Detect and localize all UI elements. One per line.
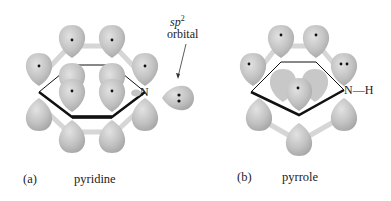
sp2-orbital-lobe [162,86,194,110]
pyridine-nitrogen-label: N [140,85,149,100]
nitrogen-symbol: N [344,83,353,97]
p-orbital-lobe [26,53,52,86]
pyrrole-caption: pyrrole [282,170,318,185]
lone-pair-electron [177,99,180,102]
p-orbital-lobe [286,78,312,111]
p-orbital-lobe [286,123,312,156]
pyridine-caption: pyridine [74,172,116,187]
pyrrole-molecule [240,25,357,156]
lone-pair-electron [177,93,180,96]
ring-edge-front [39,92,145,117]
orbital-label: orbital [167,27,198,42]
hydrogen-bond-label: —H [353,83,374,97]
p-orbital-lobe [331,98,357,131]
ring-edge-back [39,65,145,92]
p-orbital-lobe [26,98,52,131]
p-orbital-lobe [132,98,158,131]
p-orbital-lobe [246,98,272,131]
pyridine-molecule [26,25,194,153]
panel-b-label: (b) [237,170,252,185]
annotation-arrow [178,44,186,77]
panel-a-label: (a) [23,172,37,187]
p-orbital-lobe [59,79,85,112]
p-orbital-lobe [132,53,158,86]
sp-superscript: 2 [181,14,185,23]
arrow-head-icon [176,73,180,79]
pyrrole-nitrogen-label: N—H [344,83,373,98]
p-orbital-lobe [99,79,125,112]
